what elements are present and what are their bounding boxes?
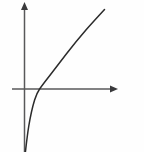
- plot-canvas: [0, 0, 144, 152]
- plot-background: [0, 0, 144, 152]
- log-graph-figure: ) y x y = 3ln x (1, 0): [0, 0, 144, 152]
